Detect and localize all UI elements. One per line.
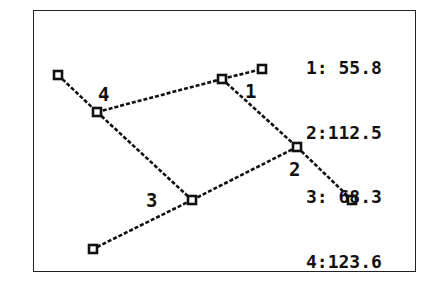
segment	[222, 69, 262, 79]
segment	[97, 79, 222, 112]
legend-row: 3: 68.3	[306, 186, 382, 208]
point-marker	[89, 245, 97, 253]
angle-label-3: 3	[146, 191, 157, 210]
point-marker	[93, 108, 101, 116]
point-marker	[188, 196, 196, 204]
segment	[93, 200, 192, 249]
segment	[97, 112, 192, 200]
angle-label-1: 1	[245, 82, 256, 101]
legend-row: 4:123.6	[306, 251, 382, 273]
angle-label-4: 4	[98, 85, 109, 104]
segment	[192, 147, 297, 200]
point-marker	[54, 71, 62, 79]
point-marker	[258, 65, 266, 73]
angle-legend: 1: 55.8 2:112.5 3: 68.3 4:123.6	[306, 14, 382, 292]
legend-row: 1: 55.8	[306, 57, 382, 79]
angle-label-2: 2	[289, 160, 300, 179]
segment	[58, 75, 97, 112]
point-marker	[218, 75, 226, 83]
legend-row: 2:112.5	[306, 122, 382, 144]
segment	[222, 79, 297, 147]
point-marker	[293, 143, 301, 151]
